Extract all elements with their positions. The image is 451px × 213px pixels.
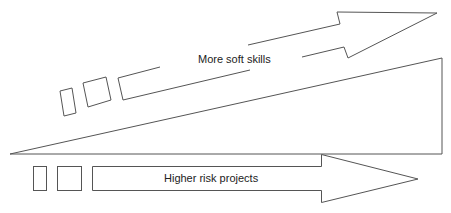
bottom-arrow-block-small bbox=[34, 167, 47, 191]
top-arrow-label: More soft skills bbox=[198, 53, 271, 66]
diagram-canvas: More soft skills Higher risk projects bbox=[0, 0, 451, 213]
bottom-arrow-label: Higher risk projects bbox=[164, 172, 258, 185]
top-arrow-body-upper bbox=[248, 12, 437, 58]
top-arrow-block-small bbox=[60, 88, 76, 116]
top-arrow-block-medium bbox=[83, 77, 111, 107]
bottom-arrow-block-medium bbox=[58, 167, 82, 191]
top-arrow-body-tail bbox=[118, 67, 250, 100]
